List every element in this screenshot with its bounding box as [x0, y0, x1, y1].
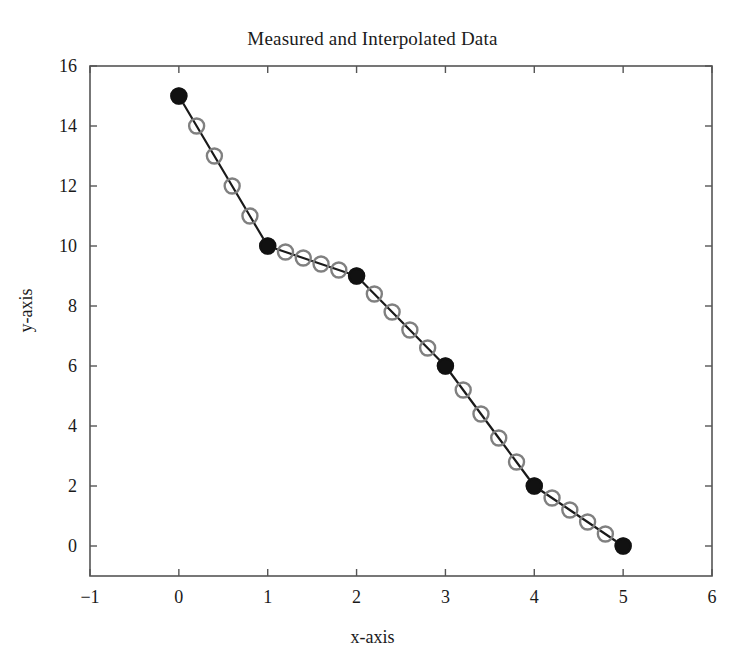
measured-point-marker: [527, 479, 542, 494]
measured-point-marker: [438, 359, 453, 374]
x-tick-label: 5: [619, 587, 628, 607]
plot-canvas: −101234560246810121416: [0, 0, 745, 666]
x-tick-label: 4: [530, 587, 539, 607]
y-tick-label: 10: [59, 236, 77, 256]
measured-point-marker: [171, 89, 186, 104]
y-tick-label: 4: [68, 416, 77, 436]
data-line: [179, 96, 623, 546]
x-tick-label: 3: [441, 587, 450, 607]
y-tick-label: 6: [68, 356, 77, 376]
y-tick-label: 8: [68, 296, 77, 316]
y-tick-label: 16: [59, 56, 77, 76]
x-tick-label: 6: [708, 587, 717, 607]
axis-tick-labels: −101234560246810121416: [59, 56, 717, 607]
x-tick-label: −1: [80, 587, 99, 607]
chart-figure: Measured and Interpolated Data −10123456…: [0, 0, 745, 666]
y-tick-label: 12: [59, 176, 77, 196]
measured-point-marker: [616, 539, 631, 554]
x-axis-label: x-axis: [0, 627, 745, 648]
y-tick-label: 2: [68, 476, 77, 496]
y-tick-label: 0: [68, 536, 77, 556]
y-axis-label: y-axis: [16, 251, 37, 371]
measured-point-marker: [349, 269, 364, 284]
y-tick-label: 14: [59, 116, 77, 136]
x-tick-label: 1: [263, 587, 272, 607]
measured-point-marker: [260, 239, 275, 254]
x-tick-label: 2: [352, 587, 361, 607]
x-tick-label: 0: [174, 587, 183, 607]
